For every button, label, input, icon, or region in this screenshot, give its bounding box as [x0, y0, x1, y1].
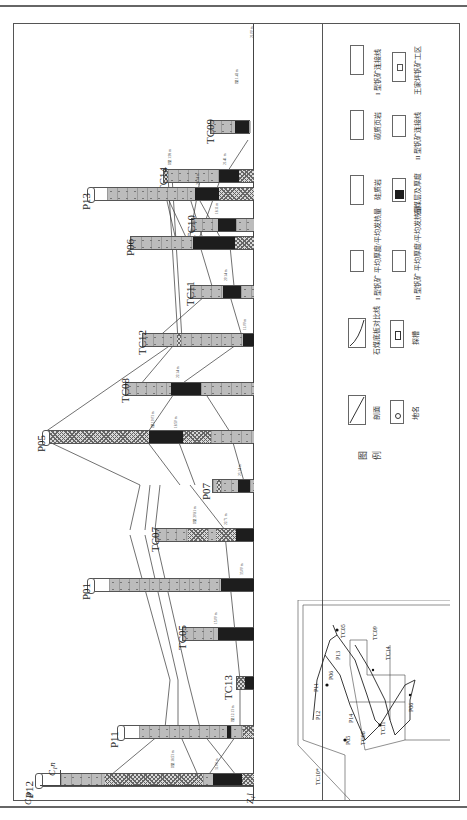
label-tc12: TC12: [136, 330, 148, 355]
strata-tick: [60, 770, 61, 786]
annotation: I型 12.13 m: [230, 705, 235, 722]
label-p01: P01: [80, 583, 92, 600]
label-tc05: TC05: [176, 625, 188, 650]
legend-title-1: 图: [356, 451, 369, 460]
legend-coal-swatch: [392, 178, 406, 202]
annotation: 42.19 m: [192, 221, 196, 232]
column-tc14: [163, 169, 253, 183]
column-tc12: [142, 333, 253, 347]
svg-text:P11: P11: [313, 683, 319, 692]
svg-text:TC05: TC05: [340, 624, 346, 638]
annotation: I型 1.42 m: [234, 69, 239, 84]
legend-ore-i-connect-label: I 型钒矿连接线: [372, 49, 382, 95]
annotation: 21.41 m: [223, 154, 227, 165]
legend-place-name-label: 地名: [410, 406, 420, 420]
annotation: 22.14 m: [176, 367, 180, 378]
annotation: 23.14 m: [238, 465, 242, 476]
annotation: 31.00 m: [215, 759, 219, 770]
annotation: I型 10.03 m: [150, 411, 155, 428]
strata-c1y: C₁y: [23, 792, 33, 805]
column-tc07: [155, 528, 253, 542]
legend-place-name-swatch: [390, 400, 404, 424]
svg-text:TC14: TC14: [385, 646, 391, 660]
column-p01: [90, 578, 253, 592]
coal-swatch-icon: [395, 190, 404, 199]
label-tc07: TC07: [149, 527, 161, 552]
legend-ore-i-avg-swatch: [350, 250, 364, 272]
annotation: 22.71 m: [224, 514, 228, 525]
svg-text:TC10*: TC10*: [315, 768, 321, 785]
svg-text:P06: P06: [328, 671, 334, 680]
legend-ore-ii-connect-label: II 型钒矿连接线: [412, 112, 422, 160]
legend-ore-i-connect-swatch: [350, 45, 364, 75]
annotation: 33.00 m: [240, 564, 244, 575]
annotation: II型 1.98 m: [167, 149, 172, 165]
svg-text:P06: P06: [408, 703, 414, 712]
label-p13: P13: [80, 193, 92, 210]
legend-work-area-label: 王家坪钒矿工区: [412, 46, 422, 95]
annotation: 20.14 m: [224, 270, 228, 281]
legend-ore-ii-connect-swatch: [392, 115, 406, 137]
annotation: 18.11 m: [215, 203, 219, 214]
strata-z1l: Z₁l: [245, 793, 255, 804]
annotation: 15.00 m: [214, 613, 218, 624]
column-tc10: [191, 218, 253, 232]
coal-floor-curve-icon: [349, 319, 365, 347]
svg-text:TC09: TC09: [372, 626, 378, 640]
annotation: 21.00 m: [250, 27, 254, 38]
column-tc05: [182, 627, 253, 641]
legend-ore-ii-avg-swatch: [392, 250, 406, 272]
column-tc08: [125, 382, 253, 396]
annotation: 11.00 m: [243, 319, 247, 330]
annotation: 18.50 m: [174, 417, 178, 428]
label-tc09: TC09: [204, 119, 216, 144]
column-tc11: [190, 285, 253, 299]
strata-axis: [40, 785, 254, 786]
svg-text:P05: P05: [345, 736, 351, 745]
svg-text:P14: P14: [348, 714, 354, 723]
label-p05: P05: [35, 435, 47, 452]
legend-shale-label: 碳质页岩: [372, 112, 382, 140]
svg-text:P12: P12: [315, 711, 321, 720]
column-p11: [120, 725, 253, 739]
column-tc13: [236, 676, 253, 690]
legend-coal-floor-swatch: [348, 318, 366, 348]
trench-icon: [395, 331, 401, 340]
legend-work-area-swatch: [392, 52, 406, 82]
location-map: P12 P11 P06 P13 TC05 P14 P05 TC08 TC11 P…: [295, 600, 450, 800]
legend-section-swatch: [348, 395, 366, 425]
svg-text:P13: P13: [335, 651, 341, 660]
legend-coal-floor-label: 石煤底板对比线: [371, 306, 381, 355]
annotation: II型 18.53 m: [170, 750, 175, 768]
column-p05: [45, 430, 253, 444]
label-tc13: TC13: [222, 675, 234, 700]
svg-text:TC11: TC11: [380, 722, 386, 735]
legend-title-2: 例: [370, 451, 383, 460]
strata-c1n: C₁n: [47, 762, 57, 776]
svg-text:TC08: TC08: [360, 731, 366, 745]
annotation: 24.14 m: [196, 174, 200, 185]
legend-trench-label: 探槽: [410, 331, 420, 345]
square-icon: [397, 64, 403, 71]
legend-sandstone-swatch: [350, 175, 364, 205]
legend-trench-swatch: [390, 320, 404, 348]
column-p13: [90, 187, 253, 201]
legend-ore-i-avg-label: I 型钒矿 平均厚度/平均发热量: [372, 208, 382, 300]
column-p07: [212, 479, 253, 493]
label-p06: P06: [124, 239, 136, 256]
legend-sandstone-label: 硅质岩: [372, 179, 382, 200]
section-line-icon: [349, 396, 365, 424]
label-p11: P11: [108, 731, 120, 748]
annotation: II型 20.81 m: [192, 506, 197, 524]
legend-shale-swatch: [350, 110, 364, 140]
label-p07: P07: [200, 483, 212, 500]
place-marker-icon: [395, 413, 401, 419]
column-p06: [130, 236, 253, 250]
break-p12: [35, 773, 43, 789]
label-tc11: TC11: [184, 281, 196, 306]
legend-ore-ii-avg-label: II 型钒矿 平均厚度/平均发热量: [412, 206, 422, 300]
column-tc09: [210, 120, 250, 134]
legend-section-label: 剖面: [371, 406, 381, 420]
label-tc08: TC08: [119, 378, 131, 403]
